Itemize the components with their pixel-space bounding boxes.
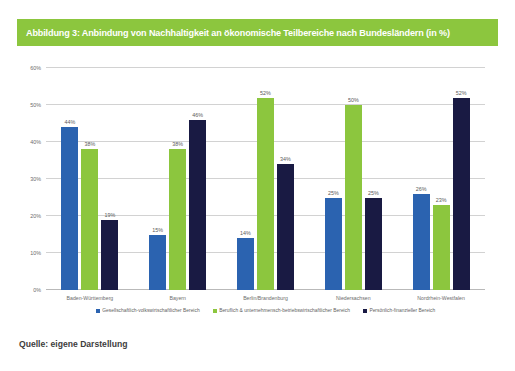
y-axis-tick-label: 30% [30,176,41,182]
bar-slot: 15% [149,68,166,290]
figure-title-banner: Abbildung 3: Anbindung von Nachhaltigkei… [17,19,498,46]
bar-groups: 44%38%19%Baden-Württemberg15%38%46%Bayer… [46,68,485,290]
x-axis-tick-label: Bayern [169,295,185,301]
bar-value-label: 44% [64,119,75,125]
y-axis-tick-label: 10% [30,250,41,256]
legend-label: Persönlich-finanzieller Bereich [369,308,435,313]
bar-slot: 46% [189,68,206,290]
legend-item[interactable]: Gesellschaftlich-volkswirtschaftlicher B… [96,308,200,313]
y-axis-tick-label: 40% [30,139,41,145]
bar-slot: 50% [345,68,362,290]
bar-slot: 34% [277,68,294,290]
legend-swatch-icon [363,309,367,313]
bar[interactable]: 26% [413,194,430,290]
bar-slot: 23% [433,68,450,290]
bar-value-label: 34% [280,156,291,162]
bar[interactable]: 15% [149,235,166,291]
bar-value-label: 50% [348,97,359,103]
legend-label: Gesellschaftlich-volkswirtschaftlicher B… [102,308,199,313]
x-axis-tick-label: Niedersachsen [336,295,371,301]
bar-slot: 19% [101,68,118,290]
bar[interactable]: 25% [365,198,382,291]
bar[interactable]: 14% [237,238,254,290]
x-axis-tick-label: Nordrhein-Westfalen [417,295,464,301]
bar-slot: 38% [81,68,98,290]
bar-slot: 52% [453,68,470,290]
x-axis-tick-label: Berlin/Brandenburg [243,295,288,301]
bar-group: 15%38%46%Bayern [134,68,222,290]
y-axis-tick-label: 60% [30,65,41,71]
bar-value-label: 38% [84,141,95,147]
legend-item[interactable]: Beruflich & unternehmensch-betriebswirts… [213,308,350,313]
bar[interactable]: 25% [325,198,342,291]
bar-group: 44%38%19%Baden-Württemberg [46,68,134,290]
bar-value-label: 46% [192,112,203,118]
figure-title: Abbildung 3: Anbindung von Nachhaltigkei… [17,28,450,38]
bar-value-label: 15% [152,227,163,233]
bar[interactable]: 34% [277,164,294,290]
bar[interactable]: 19% [101,220,118,290]
bar-chart: 0%10%20%30%40%50%60% 44%38%19%Baden-Würt… [17,55,498,325]
bar-value-label: 19% [104,212,115,218]
bar-slot: 25% [325,68,342,290]
bar-slot: 14% [237,68,254,290]
bar-slot: 38% [169,68,186,290]
bar[interactable]: 38% [169,149,186,290]
bar[interactable]: 46% [189,120,206,290]
bar-group: 26%23%52%Nordrhein-Westfalen [397,68,485,290]
bar[interactable]: 23% [433,205,450,290]
legend-item[interactable]: Persönlich-finanzieller Bereich [363,308,435,313]
y-axis-tick-label: 0% [33,287,41,293]
bar-slot: 52% [257,68,274,290]
bar-value-label: 26% [416,186,427,192]
bar[interactable]: 44% [61,127,78,290]
bar-value-label: 52% [456,90,467,96]
bar[interactable]: 52% [257,98,274,290]
legend-label: Beruflich & unternehmensch-betriebswirts… [219,308,350,313]
y-axis-tick-label: 20% [30,213,41,219]
y-axis-tick-label: 50% [30,102,41,108]
bar-value-label: 23% [436,197,447,203]
x-axis-tick-label: Baden-Württemberg [67,295,114,301]
bar-group: 25%50%25%Niedersachsen [309,68,397,290]
plot-area: 0%10%20%30%40%50%60% 44%38%19%Baden-Würt… [46,68,485,290]
bar-value-label: 25% [368,190,379,196]
figure-page: Abbildung 3: Anbindung von Nachhaltigkei… [0,0,515,371]
legend-swatch-icon [213,309,217,313]
bar-value-label: 52% [260,90,271,96]
bar-slot: 26% [413,68,430,290]
bar-value-label: 38% [172,141,183,147]
legend-swatch-icon [96,309,100,313]
bar-group: 14%52%34%Berlin/Brandenburg [222,68,310,290]
bar-value-label: 25% [328,190,339,196]
bar[interactable]: 38% [81,149,98,290]
source-caption: Quelle: eigene Darstellung [19,339,127,349]
bar-value-label: 14% [240,230,251,236]
chart-legend: Gesellschaftlich-volkswirtschaftlicher B… [46,308,485,313]
bar-slot: 25% [365,68,382,290]
bar[interactable]: 50% [345,105,362,290]
bar-slot: 44% [61,68,78,290]
bar[interactable]: 52% [453,98,470,290]
